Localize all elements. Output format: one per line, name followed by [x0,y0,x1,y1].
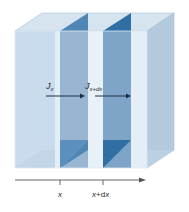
x-axis-arrowhead [139,178,146,183]
control-volume-diagram: Jx Jx+dx x x+dx [0,0,189,212]
gap-middle [88,31,103,168]
gap-left [55,31,60,168]
box-right-face [147,13,174,168]
tick-label-x: x [57,190,63,199]
tick-label-x-plus-dx: x+dx [91,190,110,199]
gap-right [131,31,147,168]
box-top-face [15,13,174,31]
